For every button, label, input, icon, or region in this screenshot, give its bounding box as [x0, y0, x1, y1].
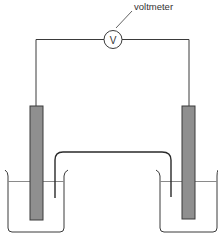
salt-bridge — [55, 152, 171, 198]
external-wire — [36, 40, 189, 107]
voltmeter-leader-line — [116, 11, 132, 28]
voltmeter-label: voltmeter — [134, 1, 173, 12]
right-electrode — [182, 106, 195, 219]
electrochemical-cell-diagram: V voltmeter — [0, 0, 218, 236]
left-electrode — [30, 106, 43, 220]
voltmeter-symbol: V — [110, 35, 117, 46]
voltmeter: V — [104, 31, 122, 49]
